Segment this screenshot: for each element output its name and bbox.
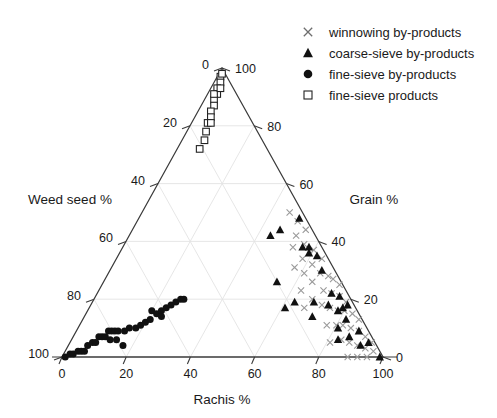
axis-lines	[52, 68, 397, 357]
legend-label: winnowing by-products	[328, 25, 462, 40]
legend-square-icon	[304, 91, 312, 99]
data-point-cross	[348, 325, 354, 331]
data-point-cross	[370, 348, 376, 354]
data-point-triangle	[324, 301, 332, 309]
legend-item-coarse-sieve-by-products[interactable]: coarse-sieve by-products	[303, 46, 475, 61]
data-point-cross	[327, 339, 333, 345]
tick-label-rachis-40: 40	[183, 367, 197, 381]
data-point-triangle	[273, 277, 281, 285]
tick-label-weedseed-40: 40	[131, 174, 145, 188]
data-point-cross	[340, 322, 346, 328]
legend-item-winnowing-by-products[interactable]: winnowing by-products	[304, 25, 462, 40]
data-point-circle	[180, 296, 187, 303]
legend-label: coarse-sieve by-products	[329, 46, 475, 61]
axis-title-grain: Grain %	[350, 192, 399, 207]
tick-label-rachis-0: 0	[59, 367, 66, 381]
series-winnowing-by-products	[287, 209, 377, 360]
data-point-circle	[158, 313, 165, 320]
data-point-square	[208, 120, 215, 127]
legend: winnowing by-productscoarse-sieve by-pro…	[303, 25, 475, 103]
data-point-cross	[362, 334, 368, 340]
data-point-cross	[346, 339, 352, 345]
data-point-triangle	[318, 266, 326, 274]
axis-title-rachis: Rachis %	[193, 392, 250, 407]
data-point-cross	[301, 270, 307, 276]
legend-item-fine-sieve-products[interactable]: fine-sieve products	[304, 88, 439, 103]
data-point-square	[196, 146, 203, 153]
data-point-circle	[113, 336, 120, 343]
data-point-circle	[119, 342, 126, 349]
tick-label-weedseed-60: 60	[99, 231, 113, 245]
tick-label-grain-80: 80	[267, 120, 281, 134]
tick-label-rachis-60: 60	[248, 367, 262, 381]
tick-label-grain-20: 20	[364, 293, 378, 307]
axis-title-weed-seed: Weed seed %	[28, 192, 112, 207]
data-point-square	[203, 128, 210, 135]
series-fine-sieve-by-products	[62, 296, 188, 361]
data-point-cross	[299, 256, 305, 262]
data-point-triangle	[343, 301, 351, 309]
data-point-cross	[291, 264, 297, 270]
tick-label-weedseed-80: 80	[67, 289, 81, 303]
ternary-plot-svg: 001002020804040606060408080201001000 Rac…	[0, 0, 497, 418]
data-point-triangle	[308, 312, 316, 320]
data-point-cross	[320, 287, 326, 293]
legend-cross-icon	[304, 28, 312, 36]
legend-circle-icon	[304, 70, 313, 79]
data-points	[62, 70, 384, 360]
data-point-cross	[319, 302, 325, 308]
tick-label-rachis-80: 80	[312, 367, 326, 381]
legend-triangle-icon	[303, 48, 313, 57]
tick-label-weedseed-0: 0	[202, 58, 209, 72]
data-point-cross	[301, 305, 307, 311]
data-point-circle	[121, 327, 128, 334]
data-point-triangle	[313, 251, 321, 259]
tick-label-weedseed-20: 20	[163, 116, 177, 130]
data-point-square	[217, 85, 224, 92]
data-point-circle	[147, 316, 154, 323]
data-point-cross	[356, 316, 362, 322]
tick-label-grain-0: 0	[396, 351, 403, 365]
legend-label: fine-sieve by-products	[329, 67, 457, 82]
data-point-cross	[309, 279, 315, 285]
data-point-cross	[303, 227, 309, 233]
tick-label-grain-60: 60	[299, 178, 313, 192]
legend-label: fine-sieve products	[329, 88, 439, 103]
tick-label-rachis-20: 20	[119, 367, 133, 381]
data-point-cross	[298, 287, 304, 293]
ternary-plot-figure: 001002020804040606060408080201001000 Rac…	[0, 0, 497, 418]
grid-lines	[94, 126, 351, 357]
tick-label-grain-40: 40	[332, 235, 346, 249]
data-point-cross	[287, 209, 293, 215]
data-point-cross	[293, 233, 299, 239]
series-fine-sieve-products	[196, 70, 225, 152]
data-point-cross	[349, 311, 355, 317]
data-point-triangle	[276, 225, 284, 233]
tick-label-weedseed-100: 100	[28, 347, 49, 361]
data-point-circle	[81, 348, 88, 355]
data-point-triangle	[295, 214, 303, 222]
tick-label-grain-100: 100	[235, 62, 256, 76]
legend-item-fine-sieve-by-products[interactable]: fine-sieve by-products	[304, 67, 457, 82]
data-point-triangle	[342, 315, 350, 323]
data-point-triangle	[266, 231, 274, 239]
data-point-cross	[290, 244, 296, 250]
data-point-square	[219, 70, 226, 77]
data-point-square	[201, 137, 208, 144]
data-point-circle	[107, 336, 114, 343]
data-point-cross	[336, 282, 342, 288]
data-point-circle	[115, 327, 122, 334]
data-point-cross	[309, 261, 315, 267]
data-point-triangle	[345, 332, 353, 340]
axis-ticks	[54, 68, 391, 364]
data-point-cross	[324, 322, 330, 328]
tick-label-rachis-100: 100	[373, 367, 394, 381]
data-point-square	[211, 91, 218, 98]
